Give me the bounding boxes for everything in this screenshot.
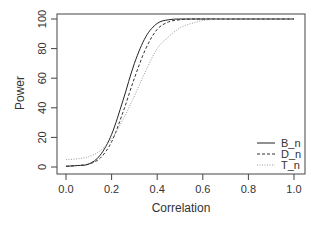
- x-axis: 0.00.20.40.60.81.0: [58, 174, 301, 195]
- y-tick-label: 80: [36, 42, 48, 54]
- y-tick-label: 100: [36, 10, 48, 28]
- y-tick-label: 20: [36, 131, 48, 143]
- series-line-b_n: [66, 19, 294, 166]
- series-line-t_n: [66, 19, 294, 160]
- x-tick-label: 0.6: [195, 183, 210, 195]
- power-chart: 020406080100 0.00.20.40.60.81.0 Correlat…: [0, 0, 319, 225]
- y-axis-label: Power: [13, 76, 27, 110]
- y-axis: 020406080100: [36, 10, 57, 170]
- x-axis-label: Correlation: [152, 201, 211, 215]
- legend: B_nD_nT_n: [257, 137, 301, 171]
- y-tick-label: 60: [36, 72, 48, 84]
- series-lines: [66, 19, 294, 166]
- plot-box: [57, 14, 305, 174]
- y-tick-label: 0: [36, 164, 48, 170]
- series-line-d_n: [66, 19, 294, 166]
- x-tick-label: 0.8: [241, 183, 256, 195]
- y-tick-label: 40: [36, 102, 48, 114]
- x-tick-label: 0.4: [150, 183, 165, 195]
- x-tick-label: 0.2: [104, 183, 119, 195]
- legend-label: T_n: [281, 159, 300, 171]
- x-tick-label: 0.0: [58, 183, 73, 195]
- x-tick-label: 1.0: [286, 183, 301, 195]
